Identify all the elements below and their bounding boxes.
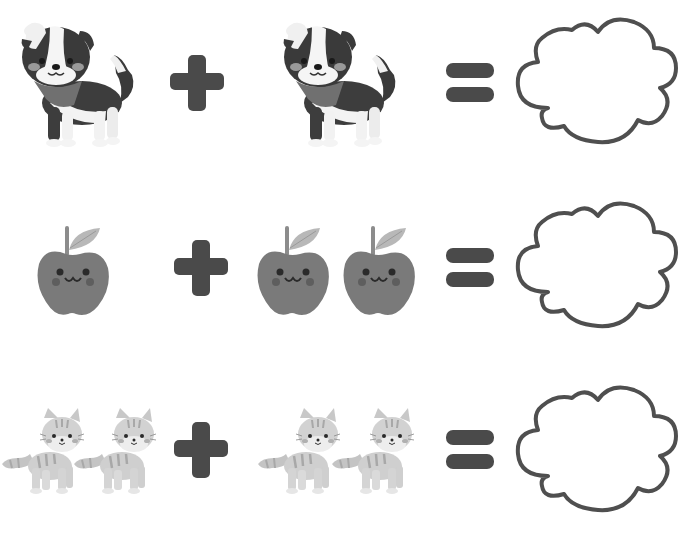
equals-icon: [446, 248, 494, 288]
plus-icon: [170, 55, 224, 111]
cat-illustration: [72, 408, 162, 498]
apple-illustration: [36, 220, 116, 320]
dog-illustration: [10, 15, 140, 150]
equals-icon: [446, 430, 494, 470]
answer-cloud[interactable]: [514, 384, 680, 516]
dog-illustration: [272, 15, 402, 150]
apple-illustration: [342, 220, 422, 320]
plus-icon: [174, 240, 228, 296]
equals-icon: [446, 63, 494, 103]
cat-illustration: [330, 408, 420, 498]
answer-cloud[interactable]: [514, 16, 680, 148]
apple-illustration: [256, 220, 336, 320]
plus-icon: [174, 422, 228, 478]
answer-cloud[interactable]: [514, 200, 680, 332]
